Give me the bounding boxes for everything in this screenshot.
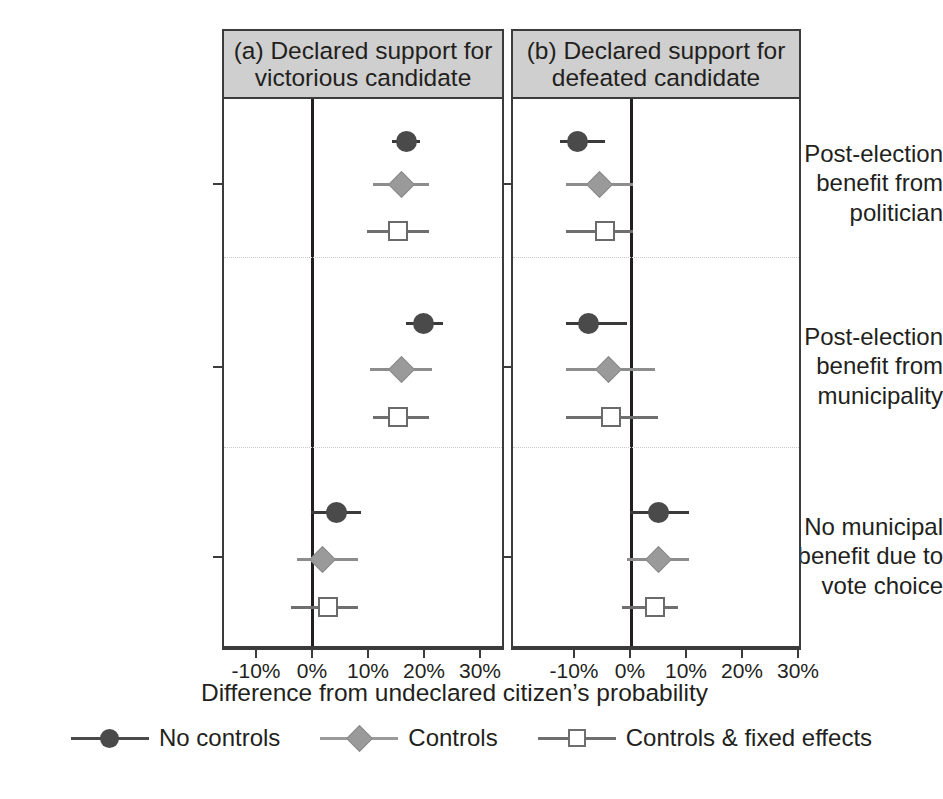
group-separator — [224, 257, 502, 258]
marker-controls — [388, 171, 415, 198]
group-separator — [513, 447, 799, 448]
x-axis-tick — [479, 650, 481, 658]
coefficient-plot-figure: Post-election benefit from politician Po… — [0, 0, 943, 799]
panel-b-title-line: defeated candidate — [527, 64, 786, 91]
marker-controls — [586, 171, 613, 198]
x-axis-tick — [367, 650, 369, 658]
x-axis-tick — [741, 650, 743, 658]
legend-item-controls-fixed-effects[interactable]: Controls & fixed effects — [538, 724, 872, 752]
legend-label: Controls — [408, 724, 497, 752]
x-axis-tick — [311, 650, 313, 658]
y-axis-tick — [213, 366, 224, 368]
marker-no-controls — [578, 313, 599, 334]
marker-controls — [595, 356, 622, 383]
marker-controls-fixed-effects — [601, 407, 621, 427]
legend-item-no-controls[interactable]: No controls — [71, 724, 280, 752]
zero-reference-line-b — [630, 99, 633, 646]
panel-a-title-line: (a) Declared support for — [234, 37, 493, 64]
y-axis-tick — [213, 183, 224, 185]
panel-b-plot-area — [511, 99, 801, 648]
panel-a-plot-area — [222, 99, 504, 648]
marker-controls — [388, 356, 415, 383]
y-axis-tick — [502, 556, 513, 558]
x-axis-title-text: Difference from undeclared citizen’s pro… — [201, 679, 708, 707]
marker-controls-fixed-effects — [645, 597, 665, 617]
y-axis-tick — [502, 183, 513, 185]
panel-a-title-line: victorious candidate — [234, 64, 493, 91]
x-axis-tick — [423, 650, 425, 658]
x-axis-tick — [629, 650, 631, 658]
x-axis-tick — [573, 650, 575, 658]
x-axis-tick — [797, 650, 799, 658]
legend-key-diamond-icon — [320, 727, 398, 749]
marker-no-controls — [326, 502, 347, 523]
panel-b-title: (b) Declared support for defeated candid… — [511, 29, 801, 99]
x-axis-panel-a: -10% 0% 10% 20% 30% — [222, 648, 504, 650]
y-axis-tick — [213, 556, 224, 558]
marker-controls-fixed-effects — [595, 221, 615, 241]
marker-no-controls — [648, 502, 669, 523]
panel-a-title: (a) Declared support for victorious cand… — [222, 29, 504, 99]
marker-no-controls — [413, 313, 434, 334]
x-axis-title: Difference from undeclared citizen’s pro… — [0, 679, 943, 707]
legend-label: No controls — [159, 724, 280, 752]
legend-key-square-icon — [538, 727, 616, 749]
legend-item-controls[interactable]: Controls — [320, 724, 497, 752]
marker-controls-fixed-effects — [388, 221, 408, 241]
legend-label: Controls & fixed effects — [626, 724, 872, 752]
marker-controls — [645, 546, 672, 573]
group-separator — [513, 257, 799, 258]
marker-controls-fixed-effects — [388, 407, 408, 427]
group-separator — [224, 447, 502, 448]
panel-b-title-line: (b) Declared support for — [527, 37, 786, 64]
y-axis-tick — [502, 366, 513, 368]
chart-legend: No controls Controls Controls & fixed ef… — [0, 724, 943, 752]
legend-key-circle-icon — [71, 727, 149, 749]
x-axis-panel-b: -10% 0% 10% 20% 30% — [511, 648, 801, 650]
x-axis-tick — [685, 650, 687, 658]
marker-controls-fixed-effects — [318, 597, 338, 617]
x-axis-tick — [255, 650, 257, 658]
marker-no-controls — [567, 131, 588, 152]
marker-no-controls — [396, 131, 417, 152]
